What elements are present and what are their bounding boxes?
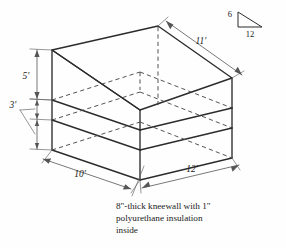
wall-height-ext-line-top xyxy=(30,49,52,50)
width-arrow-start xyxy=(142,181,150,188)
wall-height-arrow-top xyxy=(34,50,39,57)
kneewall-hidden-back-right-edge xyxy=(140,92,232,128)
width-ext-line-start xyxy=(140,180,141,193)
isometric-building-figure: 5' 3' xyxy=(0,0,286,248)
upper-wall-bottom-left-edge xyxy=(52,100,140,130)
dimension-kneewall-height: 3' xyxy=(9,99,52,150)
kneewall-height-arrow-lower-bottom xyxy=(35,143,39,149)
roof-slope-label: 11' xyxy=(196,36,208,46)
kneewall-bottom-right-edge xyxy=(140,128,232,150)
width-label: 12' xyxy=(186,164,199,174)
upper-wall-group xyxy=(52,50,232,130)
pitch-triangle-shape xyxy=(238,12,262,27)
pitch-rise-label: 6 xyxy=(228,9,232,19)
upper-wall-hidden-back-right-edge xyxy=(140,72,232,108)
kneewall-annotation-line3: inside xyxy=(116,225,138,235)
width-arrow-end xyxy=(231,165,239,172)
kneewall-bottom-left-edge xyxy=(52,120,140,150)
kneewall-height-ext-line-top xyxy=(30,99,52,100)
depth-label: 10' xyxy=(74,169,87,179)
roof-pitch-indicator: 6 12 xyxy=(228,9,262,39)
kneewall-height-arrow-upper-bottom xyxy=(35,114,39,120)
depth-dim-line xyxy=(43,159,131,189)
wall-height-arrow-bottom xyxy=(34,92,39,99)
diagram-canvas: 5' 3' xyxy=(0,0,286,248)
kneewall-height-arrow-upper-top xyxy=(35,100,39,106)
roof-slope-dim-line xyxy=(166,21,242,75)
kneewall-hidden-back-left-edge xyxy=(52,92,140,120)
dimension-roof-slope: 11' xyxy=(158,17,244,78)
roof-slope-arrow-start xyxy=(166,21,173,29)
kneewall-annotation-line1: 8"-thick kneewall with 1" xyxy=(116,201,211,211)
kneewall-annotation-line2: polyurethane insulation xyxy=(116,213,203,223)
kneewall-group xyxy=(52,92,232,150)
kneewall-height-leader-lower xyxy=(20,110,35,134)
kneewall-height-ext-line-bottom xyxy=(30,149,52,150)
kneewall-height-label: 3' xyxy=(9,100,18,110)
roof-slope-arrow-end xyxy=(235,67,242,75)
kneewall-height-leader-upper xyxy=(20,109,35,110)
dimension-depth: 10' xyxy=(42,150,140,193)
upper-wall-hidden-back-left-edge xyxy=(52,72,140,100)
lower-box-hidden-back-right-edge xyxy=(140,122,232,158)
upper-wall-bottom-right-edge xyxy=(140,108,232,130)
lower-box-bottom-left-edge xyxy=(52,150,140,180)
wall-height-label: 5' xyxy=(23,71,31,81)
pitch-run-label: 12 xyxy=(246,29,255,39)
dimension-wall-height: 5' xyxy=(23,49,52,100)
kneewall-height-ext-line-mid xyxy=(30,119,52,120)
roof-hip-line xyxy=(52,50,140,110)
kneewall-height-arrow-lower-top xyxy=(35,120,39,126)
kneewall-annotation-leader-line xyxy=(132,166,144,196)
dimension-width: 12' xyxy=(140,158,240,193)
